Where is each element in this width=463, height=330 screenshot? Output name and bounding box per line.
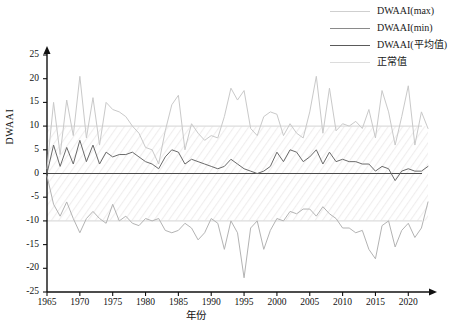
x-tick-label: 1995 <box>227 297 261 307</box>
y-tick-label: 20 <box>15 73 39 83</box>
x-tick-label: 1980 <box>129 297 163 307</box>
x-tick-label: 2015 <box>358 297 392 307</box>
y-tick-label: -25 <box>15 286 39 296</box>
x-tick-label: 1970 <box>63 297 97 307</box>
y-tick-label: 25 <box>15 49 39 59</box>
y-tick-label: -15 <box>15 239 39 249</box>
y-tick-label: -5 <box>15 191 39 201</box>
x-tick-label: 2005 <box>293 297 327 307</box>
y-tick-label: 15 <box>15 96 39 106</box>
x-tick-label: 2000 <box>260 297 294 307</box>
y-axis-title: DWAAI <box>4 131 15 145</box>
x-tick-label: 1965 <box>30 297 64 307</box>
y-tick-label: 10 <box>15 120 39 130</box>
x-tick-label: 1985 <box>161 297 195 307</box>
x-axis-title: 年份 <box>186 307 206 322</box>
y-tick-label: 5 <box>15 144 39 154</box>
x-tick-label: 2010 <box>326 297 360 307</box>
x-tick-label: 1990 <box>194 297 228 307</box>
x-tick-label: 1975 <box>96 297 130 307</box>
chart-canvas <box>0 0 463 330</box>
x-tick-label: 2020 <box>391 297 425 307</box>
y-tick-label: -20 <box>15 262 39 272</box>
y-tick-label: -10 <box>15 215 39 225</box>
chart-root: DWAAI(max) DWAAI(min) DWAAI(平均值) 正常值 DWA… <box>0 0 463 330</box>
y-tick-label: 0 <box>15 168 39 178</box>
plot-area: DWAAI 年份 2520151050-5-10-15-20-25 196519… <box>0 0 463 330</box>
